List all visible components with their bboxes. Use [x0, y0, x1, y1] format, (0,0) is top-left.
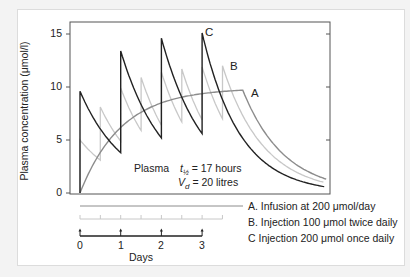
y-tick-5: 5: [42, 133, 62, 145]
day-tick-0: 0: [75, 239, 85, 251]
curve-label-b: B: [230, 60, 238, 72]
arrow-head-icon: [119, 229, 122, 232]
day-tick-2: 2: [156, 239, 166, 251]
arrow-head-icon: [201, 229, 204, 232]
y-tick-0: 0: [42, 186, 62, 198]
legend-c: C Injection 200 μmol once daily: [248, 232, 394, 244]
annotation-half-life: t½ = 17 hours: [180, 162, 242, 176]
y-tick-15: 15: [42, 27, 62, 39]
arrow-head-icon: [79, 229, 82, 232]
day-tick-1: 1: [116, 239, 126, 251]
annotation-plasma: Plasma: [134, 162, 169, 174]
legend-b: B. Injection 100 μmol twice daily: [248, 216, 398, 228]
y-axis-title: Plasma concentration (μmol/l): [18, 41, 30, 181]
legend-a: A. Infusion at 200 μmol/day: [248, 200, 375, 212]
arrow-head-icon: [160, 229, 163, 232]
annotation-volume: Vd = 20 litres: [178, 176, 238, 191]
curve-label-a: A: [251, 87, 259, 99]
day-tick-3: 3: [197, 239, 207, 251]
dosing-schedule: [79, 206, 244, 236]
x-axis-title: Days: [129, 251, 153, 263]
y-tick-10: 10: [42, 80, 62, 92]
curve-label-c: C: [205, 26, 213, 38]
